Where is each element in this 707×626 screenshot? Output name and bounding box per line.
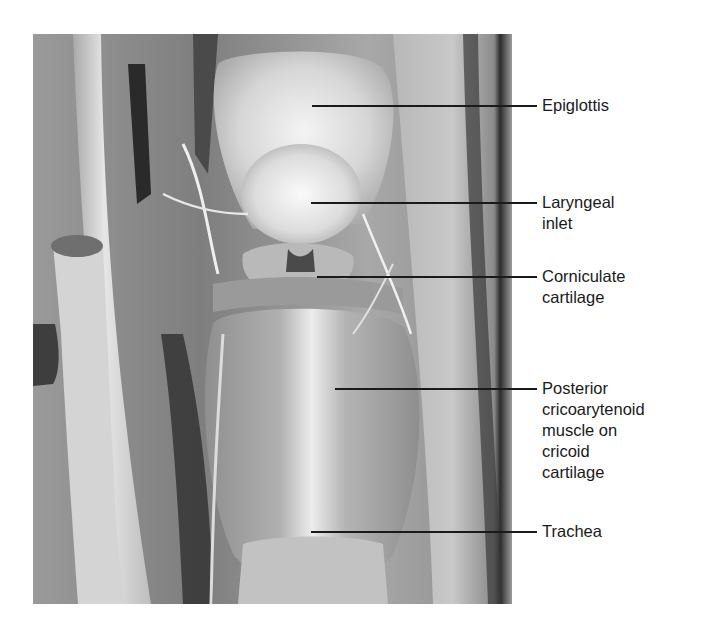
label-posterior-cricoarytenoid: Posterior cricoarytenoid muscle on crico… (542, 378, 645, 483)
larynx-dissection-photo (33, 34, 512, 604)
leader-line-laryngeal-inlet (311, 202, 537, 204)
photo-illustration (33, 34, 512, 604)
label-corniculate-cartilage: Corniculate cartilage (542, 266, 625, 308)
leader-line-corniculate-cartilage (317, 276, 537, 278)
leader-line-trachea (311, 531, 537, 533)
leader-line-posterior-cricoarytenoid (335, 388, 537, 390)
label-laryngeal-inlet: Laryngeal inlet (542, 192, 614, 234)
label-epiglottis: Epiglottis (542, 95, 609, 116)
label-trachea: Trachea (542, 521, 602, 542)
leader-line-epiglottis (312, 105, 537, 107)
